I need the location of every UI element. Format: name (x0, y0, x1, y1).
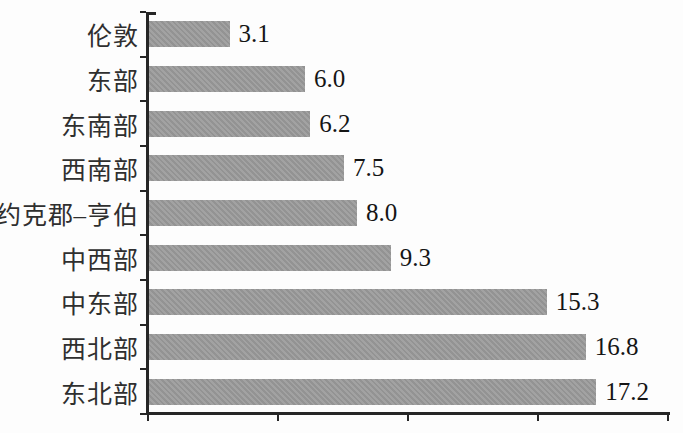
y-axis-tick (140, 56, 146, 58)
y-axis-tick (140, 279, 146, 281)
category-label: 伦敦 (0, 12, 139, 57)
value-label: 15.3 (556, 280, 600, 325)
category-label: 中东部 (0, 280, 139, 325)
y-axis-top-cap-tick (149, 12, 156, 15)
bar (149, 289, 547, 315)
category-label: 东部 (0, 57, 139, 102)
bar (149, 66, 305, 92)
y-axis-tick (140, 100, 146, 102)
value-label: 16.8 (595, 325, 639, 370)
bar (149, 334, 586, 360)
y-axis-tick (140, 190, 146, 192)
bar-chart: 伦敦3.1东部6.0东南部6.2西南部7.5约克郡–亨伯8.0中西部9.3中东部… (0, 0, 683, 433)
value-label: 17.2 (605, 369, 649, 414)
y-axis-tick (140, 11, 146, 13)
value-label: 6.2 (319, 101, 350, 146)
bar (149, 379, 596, 405)
x-axis-tick (667, 413, 669, 421)
value-label: 7.5 (353, 146, 384, 191)
bar (149, 155, 344, 181)
y-axis-tick (140, 324, 146, 326)
bar (149, 111, 310, 137)
value-label: 3.1 (239, 12, 270, 57)
y-axis-tick (140, 368, 146, 370)
category-label: 约克郡–亨伯 (0, 191, 139, 236)
y-axis-tick (140, 145, 146, 147)
category-label: 东南部 (0, 101, 139, 146)
bar (149, 21, 230, 47)
x-axis-tick (407, 413, 409, 421)
bar (149, 200, 357, 226)
x-axis-tick (147, 413, 149, 421)
y-axis-tick (140, 413, 146, 415)
x-axis-tick (277, 413, 279, 421)
y-axis-tick (140, 234, 146, 236)
category-label: 西北部 (0, 325, 139, 370)
category-label: 中西部 (0, 235, 139, 280)
x-axis-tick (537, 413, 539, 421)
value-label: 6.0 (314, 57, 345, 102)
category-label: 东北部 (0, 369, 139, 414)
value-label: 9.3 (400, 235, 431, 280)
value-label: 8.0 (366, 191, 397, 236)
category-label: 西南部 (0, 146, 139, 191)
bar (149, 245, 391, 271)
